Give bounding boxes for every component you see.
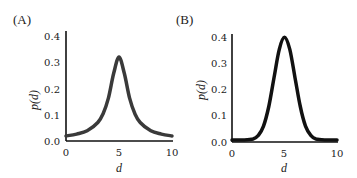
x-axis-label-a: d [116,161,123,175]
x-tick-labels-a: 0 5 10 [63,147,179,158]
y-tick-b: 0.2 [211,84,227,95]
curve-b [232,37,337,140]
x-axis-label-b: d [281,161,288,175]
curve-a [66,57,172,136]
figure: (A) 0.4 0.3 0.2 0.1 0.0 0 5 10 d p(d) (B… [0,0,357,178]
x-tick-a: 5 [116,147,122,158]
y-tick-b: 0.4 [211,32,227,43]
x-tick-b: 0 [229,148,235,159]
panel-label-a: (A) [13,12,31,27]
y-tick-labels-b: 0.4 0.3 0.2 0.1 0.0 [211,32,227,148]
y-axis-label-b: p(d) [194,80,208,101]
y-tick-a: 0.4 [44,31,60,42]
x-tick-b: 5 [281,148,287,159]
x-tick-labels-b: 0 5 10 [229,148,344,159]
y-tick-b: 0.0 [211,137,227,148]
y-axis-label-a: p(d) [27,90,41,111]
y-tick-a: 0.3 [44,57,60,68]
y-tick-a: 0.2 [44,84,60,95]
y-tick-b: 0.3 [211,58,227,69]
y-tick-a: 0.0 [44,136,60,147]
y-tick-a: 0.1 [44,110,60,121]
chart-a: (A) 0.4 0.3 0.2 0.1 0.0 0 5 10 d p(d) [13,12,178,175]
chart-b: (B) 0.4 0.3 0.2 0.1 0.0 0 5 10 d p(d) [176,12,343,175]
y-tick-labels-a: 0.4 0.3 0.2 0.1 0.0 [44,31,60,147]
y-tick-b: 0.1 [211,110,227,121]
panel-label-b: (B) [176,12,193,27]
x-tick-b: 10 [331,148,344,159]
x-tick-a: 0 [63,147,69,158]
x-tick-a: 10 [166,147,179,158]
